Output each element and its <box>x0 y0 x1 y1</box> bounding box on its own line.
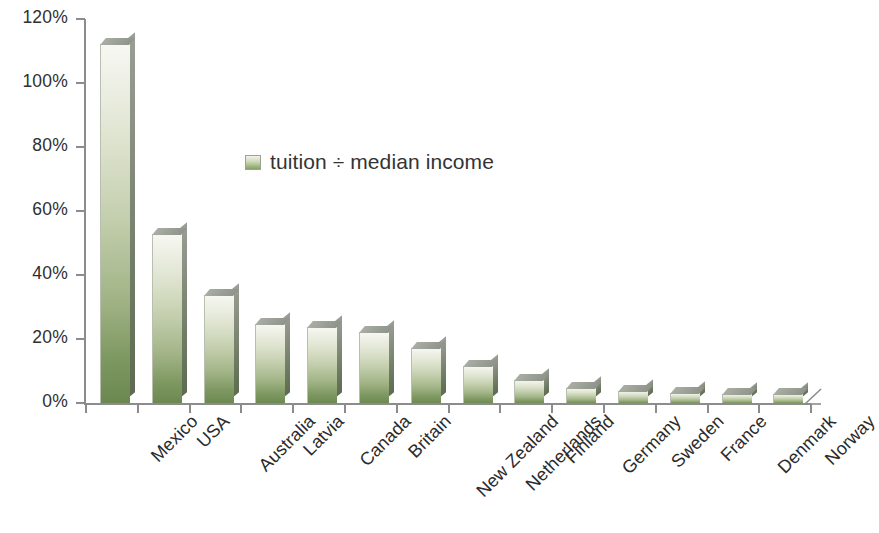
y-axis-tick <box>76 274 85 276</box>
bar-front-face <box>566 388 596 404</box>
x-axis-category-label: France <box>716 411 771 466</box>
x-axis-end-cap-icon <box>805 388 823 406</box>
bar <box>566 388 595 404</box>
bar-top-face <box>100 38 135 45</box>
bar <box>204 295 233 404</box>
bar <box>152 234 181 404</box>
y-axis-tick-label: 0% <box>0 393 68 411</box>
x-axis-tick <box>396 404 398 413</box>
bar-top-face <box>359 326 394 333</box>
y-axis-tick-label-text: 0% <box>2 393 68 411</box>
y-axis-tick-label: 120% <box>0 9 68 27</box>
x-axis-tick <box>448 404 450 413</box>
y-axis-tick-label: 100% <box>0 73 68 91</box>
y-axis-tick-label-text: 100% <box>2 73 68 91</box>
bar <box>255 324 284 404</box>
bar-top-face <box>411 342 446 349</box>
y-axis-tick-label: 80% <box>0 137 68 155</box>
x-axis-tick <box>137 404 139 413</box>
y-axis-tick-label-text: 20% <box>2 329 68 347</box>
legend-label: tuition ÷ median income <box>270 150 494 174</box>
y-axis-tick <box>76 338 85 340</box>
bar-front-face <box>411 348 441 404</box>
x-axis-tick <box>551 404 553 413</box>
bar-top-face <box>204 289 239 296</box>
plot-area <box>86 19 811 404</box>
y-axis-tick <box>76 146 85 148</box>
bar-top-face <box>463 360 498 367</box>
bar <box>463 366 492 404</box>
x-axis-tick <box>344 404 346 413</box>
y-axis-tick-label: 40% <box>0 265 68 283</box>
bar-top-face <box>722 388 757 395</box>
y-axis-tick-label-text: 40% <box>2 265 68 283</box>
bar <box>411 348 440 404</box>
y-axis-tick-label: 60% <box>0 201 68 219</box>
x-axis-category-label: USA <box>193 411 234 452</box>
bar-front-face <box>100 44 130 404</box>
x-axis-tick <box>655 404 657 413</box>
bar-front-face <box>152 234 182 404</box>
x-axis-tick <box>240 404 242 413</box>
bar-top-face <box>670 387 705 394</box>
bar-front-face <box>307 327 337 404</box>
x-axis-tick <box>707 404 709 413</box>
bar-front-face <box>204 295 234 404</box>
bar-front-face <box>514 380 544 404</box>
y-axis-tick-label-text: 120% <box>2 9 68 27</box>
x-axis-tick <box>499 404 501 413</box>
y-axis-tick <box>76 82 85 84</box>
bar-front-face <box>255 324 285 404</box>
bar <box>514 380 543 404</box>
x-axis-tick <box>292 404 294 413</box>
bar <box>359 332 388 404</box>
y-axis-tick-label: 20% <box>0 329 68 347</box>
x-axis-tick <box>810 404 812 413</box>
bar-top-face <box>152 228 187 235</box>
y-axis-tick <box>76 210 85 212</box>
chart-legend: tuition ÷ median income <box>245 150 494 174</box>
legend-color-swatch-icon <box>245 155 261 170</box>
x-axis-category-label: Germany <box>618 411 686 479</box>
bar-top-face <box>618 385 653 392</box>
y-axis-tick <box>76 18 85 20</box>
x-axis-tick <box>85 404 87 413</box>
bar <box>307 327 336 404</box>
x-axis-category-label: Britain <box>404 411 455 462</box>
x-axis-category-label: Canada <box>356 411 416 471</box>
bar <box>100 44 129 404</box>
bar-front-face <box>463 366 493 404</box>
bar-front-face <box>359 332 389 404</box>
y-axis-tick-label-text: 80% <box>2 137 68 155</box>
x-axis-tick <box>758 404 760 413</box>
y-axis-tick-label-text: 60% <box>2 201 68 219</box>
bar-top-face <box>566 382 601 389</box>
